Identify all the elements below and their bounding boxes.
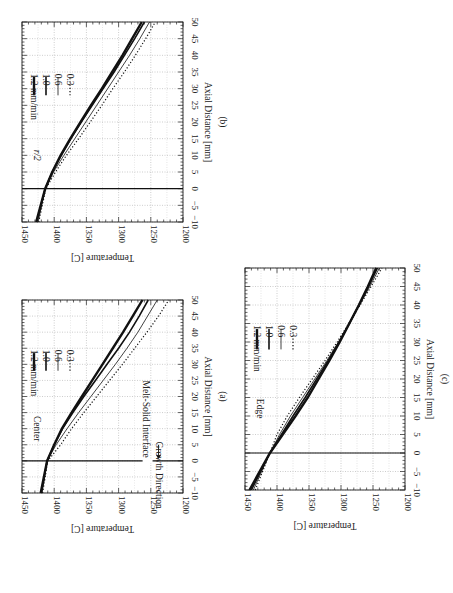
y-tick-label: 1250 bbox=[371, 493, 381, 512]
legend-label: 0.6 bbox=[276, 325, 286, 337]
y-tick-label: 1350 bbox=[84, 496, 94, 515]
x-tick-label: 10 bbox=[190, 424, 200, 434]
panel-caption: (a) bbox=[217, 391, 228, 402]
x-tick-label: 45 bbox=[412, 282, 422, 292]
y-tick-label: 1250 bbox=[149, 225, 159, 244]
x-tick-label: 40 bbox=[190, 51, 200, 61]
y-tick-label: 1450 bbox=[20, 496, 30, 515]
panel-annotation: Center bbox=[32, 416, 42, 442]
chart-panel-c: −10−505101520253035404550Axial Distance … bbox=[243, 264, 450, 532]
x-tick-label: 5 bbox=[190, 170, 200, 175]
panel-annotation: r/2 bbox=[32, 150, 42, 161]
x-tick-label: 30 bbox=[412, 338, 422, 348]
legend-label: 1.2 mm/min bbox=[252, 325, 262, 372]
y-tick-label: 1300 bbox=[339, 493, 349, 512]
x-tick-label: 5 bbox=[412, 432, 422, 437]
panel-annotation: Edge bbox=[255, 399, 265, 419]
chart-panel-b: −10−505101520253035404550Axial Distance … bbox=[20, 18, 228, 264]
y-tick-label: 1400 bbox=[52, 496, 62, 515]
y-axis-label: Temperature [C] bbox=[71, 253, 134, 263]
interface-label: Melt-Solid Interface bbox=[141, 381, 151, 458]
y-axis-label: Temperature [C] bbox=[294, 521, 357, 531]
legend: 1.2 mm/min1.00.60.3 bbox=[252, 325, 298, 372]
x-tick-label: 30 bbox=[190, 360, 200, 370]
x-axis-label: Axial Distance [mm] bbox=[203, 82, 213, 162]
y-tick-label: 1400 bbox=[275, 493, 285, 512]
x-tick-label: 45 bbox=[190, 312, 200, 322]
x-tick-label: 0 bbox=[412, 451, 422, 456]
grid bbox=[22, 22, 183, 222]
x-tick-label: 20 bbox=[190, 392, 200, 402]
y-tick-label: 1300 bbox=[117, 496, 127, 515]
legend: 1.2 mm/min1.00.60.3 bbox=[29, 350, 75, 397]
x-tick-label: 0 bbox=[190, 186, 200, 191]
y-tick-label: 1350 bbox=[307, 493, 317, 512]
x-tick-label: 50 bbox=[190, 18, 200, 28]
y-tick-label: 1400 bbox=[52, 225, 62, 244]
x-tick-label: 25 bbox=[412, 356, 422, 366]
legend-label: 0.3 bbox=[288, 325, 298, 337]
x-tick-label: 25 bbox=[190, 101, 200, 111]
x-tick-label: 10 bbox=[190, 151, 200, 161]
x-tick-label: 40 bbox=[190, 328, 200, 338]
x-tick-label: −5 bbox=[190, 472, 200, 482]
legend-label: 1.2 mm/min bbox=[29, 74, 39, 121]
legend-label: 0.3 bbox=[65, 350, 75, 362]
x-tick-label: 20 bbox=[412, 375, 422, 385]
x-tick-label: 5 bbox=[190, 443, 200, 448]
y-tick-label: 1450 bbox=[243, 493, 253, 512]
y-tick-label: 1200 bbox=[403, 493, 413, 512]
legend-label: 1.0 bbox=[41, 350, 51, 362]
x-tick-label: 10 bbox=[412, 412, 422, 422]
y-tick-label: 1200 bbox=[181, 225, 191, 244]
x-tick-label: −5 bbox=[190, 201, 200, 211]
y-tick-label: 1350 bbox=[84, 225, 94, 244]
legend-label: 0.3 bbox=[65, 74, 75, 86]
x-tick-label: 40 bbox=[412, 301, 422, 311]
y-tick-label: 1200 bbox=[181, 496, 191, 515]
x-tick-label: 35 bbox=[190, 68, 200, 78]
x-axis-label: Axial Distance [mm] bbox=[203, 356, 213, 436]
legend-label: 0.6 bbox=[53, 74, 63, 86]
legend-label: 1.0 bbox=[41, 74, 51, 86]
x-tick-label: 35 bbox=[190, 344, 200, 354]
x-tick-label: 45 bbox=[190, 34, 200, 44]
x-tick-label: 20 bbox=[190, 118, 200, 128]
legend-label: 0.6 bbox=[53, 350, 63, 362]
y-tick-label: 1300 bbox=[117, 225, 127, 244]
panel-caption: (c) bbox=[439, 374, 450, 385]
x-tick-label: −5 bbox=[412, 467, 422, 477]
x-tick-label: 0 bbox=[190, 459, 200, 464]
x-tick-label: 35 bbox=[412, 319, 422, 329]
y-axis-label: Temperature [C] bbox=[71, 524, 134, 534]
legend-label: 1.0 bbox=[264, 325, 274, 337]
legend-label: 1.2 mm/min bbox=[29, 350, 39, 397]
figure: −10−505101520253035404550Axial Distance … bbox=[0, 0, 453, 593]
x-tick-label: 50 bbox=[412, 264, 422, 274]
x-tick-label: 30 bbox=[190, 84, 200, 94]
y-tick-label: 1450 bbox=[20, 225, 30, 244]
growth-direction-label: Growth Direction bbox=[154, 442, 164, 510]
panel-caption: (b) bbox=[217, 116, 228, 127]
chart-panel-a: −10−505101520253035404550Axial Distance … bbox=[20, 296, 228, 535]
x-tick-label: 25 bbox=[190, 376, 200, 386]
x-tick-label: 15 bbox=[412, 393, 422, 403]
x-axis-label: Axial Distance [mm] bbox=[425, 339, 435, 419]
legend: 1.2 mm/min1.00.60.3 bbox=[29, 74, 75, 121]
x-tick-label: 50 bbox=[190, 296, 200, 306]
x-tick-label: 15 bbox=[190, 408, 200, 418]
x-tick-label: 15 bbox=[190, 134, 200, 144]
